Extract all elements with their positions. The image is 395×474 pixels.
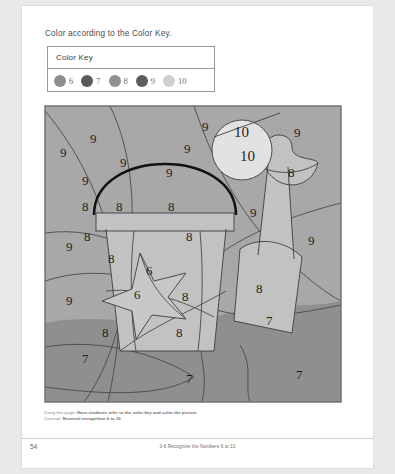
page-footer: 54 3-6 Recognize the Numbers 6 to 10 <box>22 443 373 459</box>
number-label-9: 9 <box>120 155 127 170</box>
color-key-title: Color Key <box>48 47 214 69</box>
color-key-label-9: 9 <box>151 76 155 86</box>
bucket-rim <box>96 213 234 231</box>
color-key-item-9: 9 <box>136 75 155 87</box>
number-label-8: 8 <box>108 251 115 266</box>
number-label-9: 9 <box>184 141 191 156</box>
number-label-9: 9 <box>90 131 97 146</box>
color-key-label-7: 7 <box>96 76 100 86</box>
color-swatch-9 <box>136 75 148 87</box>
concept-text: Numeral recognition 6 to 10 <box>63 416 121 421</box>
number-label-8: 8 <box>116 199 123 214</box>
worksheet-page: Color according to the Color Key. Color … <box>22 6 373 468</box>
number-label-9: 9 <box>60 145 67 160</box>
color-by-number-picture: 999999999999101088888888888667777 <box>44 105 342 403</box>
color-key-item-7: 7 <box>81 75 100 87</box>
using-label: Using this page: <box>44 410 76 415</box>
color-key-panel: Color Key 6 7 8 9 10 <box>47 46 215 92</box>
number-label-9: 9 <box>308 233 315 248</box>
page-title: Color according to the Color Key. <box>45 29 172 38</box>
color-key-entries: 6 7 8 9 10 <box>48 69 214 93</box>
color-key-item-10: 10 <box>163 75 187 87</box>
color-swatch-8 <box>109 75 121 87</box>
number-label-8: 8 <box>176 325 183 340</box>
footer-divider <box>22 438 373 439</box>
color-swatch-7 <box>81 75 93 87</box>
concept-label: Concept: <box>44 416 62 421</box>
number-label-7: 7 <box>296 367 303 382</box>
number-label-9: 9 <box>66 293 73 308</box>
number-label-10: 10 <box>234 124 249 140</box>
number-label-7: 7 <box>186 371 193 386</box>
number-label-7: 7 <box>266 313 273 328</box>
number-label-8: 8 <box>182 289 189 304</box>
number-label-8: 8 <box>84 229 91 244</box>
number-label-8: 8 <box>288 165 295 180</box>
number-label-9: 9 <box>294 125 301 140</box>
number-label-9: 9 <box>202 119 209 134</box>
color-swatch-6 <box>54 75 66 87</box>
color-key-label-8: 8 <box>124 76 128 86</box>
number-label-9: 9 <box>166 165 173 180</box>
number-label-10: 10 <box>240 148 255 164</box>
number-label-8: 8 <box>186 229 193 244</box>
number-label-9: 9 <box>66 239 73 254</box>
color-key-item-6: 6 <box>54 75 73 87</box>
number-label-8: 8 <box>256 281 263 296</box>
footer-lesson-title: 3-6 Recognize the Numbers 6 to 10 <box>22 444 373 449</box>
number-label-8: 8 <box>102 325 109 340</box>
number-label-6: 6 <box>134 287 141 302</box>
number-label-7: 7 <box>82 351 89 366</box>
number-label-9: 9 <box>250 205 257 220</box>
teacher-note-concept: Concept: Numeral recognition 6 to 10 <box>44 416 344 422</box>
color-key-label-10: 10 <box>178 76 187 86</box>
using-text: Have students refer to the color key and… <box>77 410 198 415</box>
color-swatch-10 <box>163 75 175 87</box>
number-label-8: 8 <box>168 199 175 214</box>
teacher-note: Using this page: Have students refer to … <box>44 410 344 422</box>
color-key-item-8: 8 <box>109 75 128 87</box>
number-label-9: 9 <box>82 173 89 188</box>
number-label-6: 6 <box>146 263 153 278</box>
number-label-8: 8 <box>82 199 89 214</box>
color-key-label-6: 6 <box>69 76 73 86</box>
